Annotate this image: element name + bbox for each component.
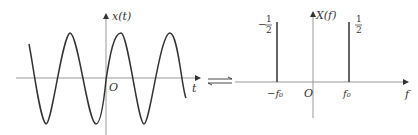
diagram-canvas: x(t) O t X(f) O f −f₀ f₀ − 1 2 1 2 <box>0 0 418 135</box>
x-t-label: x(t) <box>112 10 131 23</box>
f-label: f <box>404 88 411 101</box>
tick-pos-f0: f₀ <box>342 88 351 99</box>
origin-label-right: O <box>304 87 313 100</box>
svg-text:1: 1 <box>356 14 362 24</box>
amplitude-pos-half: 1 2 <box>355 14 362 35</box>
time-domain-plot: x(t) O t <box>16 10 200 135</box>
origin-label-left: O <box>109 81 118 94</box>
amplitude-neg-half: − 1 2 <box>258 14 272 35</box>
X-f-label: X(f) <box>315 9 337 22</box>
fourier-pair-arrows <box>208 77 232 85</box>
frequency-domain-plot: X(f) O f −f₀ f₀ − 1 2 1 2 <box>235 9 411 118</box>
svg-text:2: 2 <box>266 25 272 35</box>
tick-neg-f0: −f₀ <box>267 88 283 99</box>
svg-text:1: 1 <box>266 14 272 24</box>
t-label: t <box>192 82 197 95</box>
svg-text:2: 2 <box>356 25 362 35</box>
